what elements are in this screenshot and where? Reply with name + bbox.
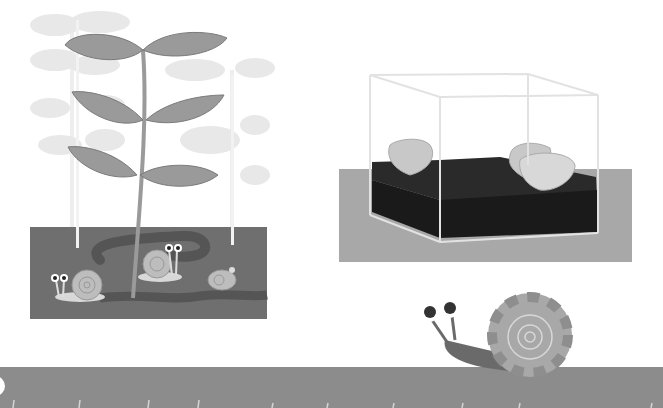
illustration-scene — [0, 0, 663, 408]
plant-stem-right — [231, 75, 234, 245]
plant-stem-left — [76, 20, 79, 248]
large-snail — [422, 293, 572, 377]
illustration-canvas — [0, 0, 663, 408]
ground-strip — [0, 367, 663, 408]
worm-tunnel-lower — [100, 295, 267, 298]
